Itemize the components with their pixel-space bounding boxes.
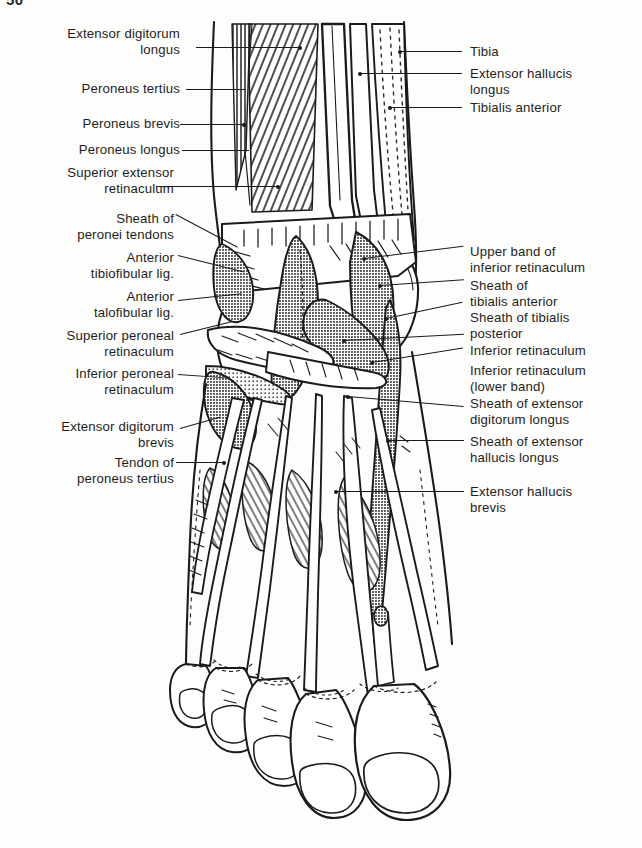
label-tibia: Tibia [470,44,640,60]
label-inferior-peroneal-retinaculum: Inferior peroneal retinaculum [0,366,174,397]
leader-peroneus-tertius [186,89,246,90]
label-superior-extensor-retinaculum: Superior extensor retinaculum [0,165,174,196]
label-peroneus-tertius: Peroneus tertius [8,81,180,97]
label-sheath-of-tibialis-posterior: Sheath of tibialis posterior [470,310,642,341]
label-peroneus-brevis: Peroneus brevis [8,116,180,132]
leader-tendon-of-peroneus-tertius [176,462,224,463]
label-sheath-of-peronei-tendons: Sheath of peronei tendons [0,211,174,242]
leader-peroneus-brevis [180,124,244,125]
leader-extensor-digitorum-longus [196,47,300,48]
leader-extensor-hallucis-brevis [336,491,464,492]
label-sheath-of-extensor-hallucis-longus: Sheath of extensor hallucis longus [470,434,642,465]
label-extensor-hallucis-brevis: Extensor hallucis brevis [470,484,642,515]
label-peroneus-longus: Peroneus longus [8,142,180,158]
leader-peroneus-longus [182,150,249,151]
leader-sheath-of-extensor-hallucis-longus [388,440,464,441]
leader-tibialis-anterior [390,107,462,108]
leader-superior-extensor-retinaculum [156,186,278,187]
leader-extensor-hallucis-longus [360,73,462,74]
anatomical-plate: 50 [0,0,642,848]
label-anterior-talofibular-lig: Anterior talofibular lig. [0,289,174,320]
label-tendon-of-peroneus-tertius: Tendon of peroneus tertius [0,455,174,486]
label-superior-peroneal-retinaculum: Superior peroneal retinaculum [0,328,174,359]
label-sheath-of-extensor-digitorum-longus: Sheath of extensor digitorum longus [470,396,642,427]
label-extensor-hallucis-longus: Extensor hallucis longus [470,66,640,97]
label-sheath-of-tibialis-anterior: Sheath of tibialis anterior [470,278,642,309]
label-extensor-digitorum-longus: Extensor digitorum longus [8,26,180,57]
label-inferior-retinaculum-lower-band: Inferior retinaculum (lower band) [470,363,642,394]
label-upper-band-of-inferior-retinaculum: Upper band of inferior retinaculum [470,244,642,275]
label-inferior-retinaculum: Inferior retinaculum [470,343,642,359]
leader-tibia [400,51,462,52]
label-extensor-digitorum-brevis: Extensor digitorum brevis [0,419,174,450]
label-tibialis-anterior: Tibialis anterior [470,100,640,116]
label-anterior-tibiofibular-lig: Anterior tibiofibular lig. [0,250,174,281]
